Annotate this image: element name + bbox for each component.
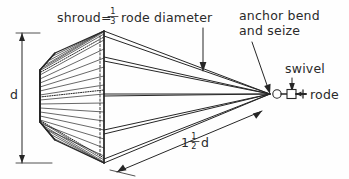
length-dimension-line <box>110 111 262 176</box>
title-fraction-numerator: 1 <box>110 6 115 16</box>
length-arrow-left <box>117 165 127 172</box>
title-prefix-label: shroud= <box>57 10 112 25</box>
anchor-shroud-diagram: shroud= 1 3 rode diameter anchor bend an… <box>0 0 349 179</box>
rode-label: rode <box>310 87 339 102</box>
dimension-arrow-bottom <box>19 155 25 163</box>
length-fraction-denominator: 2 <box>191 141 196 151</box>
thimble-ring-icon <box>273 90 281 98</box>
swivel-label: swivel <box>285 61 325 76</box>
shroud-leader-arrow <box>200 28 207 72</box>
length-label-group: 1 1 2 d <box>181 131 209 151</box>
title-label-group: shroud= 1 3 rode diameter <box>57 6 213 26</box>
length-arrow-right <box>253 111 262 119</box>
shroud-seam-upper <box>41 37 104 72</box>
anchor-hardware-group <box>273 90 306 99</box>
swivel-icon <box>287 90 296 99</box>
title-suffix-label: rode diameter <box>121 10 213 25</box>
length-suffix-label: d <box>201 135 209 150</box>
diameter-label: d <box>10 87 18 102</box>
anchor-bend-leader <box>252 42 271 94</box>
diagram-canvas: shroud= 1 3 rode diameter anchor bend an… <box>0 0 349 179</box>
title-fraction-denominator: 3 <box>110 16 115 26</box>
anchor-bend-label-line2: and seize <box>239 23 300 38</box>
anchor-bend-label-line1: anchor bend <box>239 8 320 23</box>
diameter-dimension-line <box>16 33 52 163</box>
shroud-leader-arrowhead <box>200 62 207 72</box>
shroud-cone-body <box>40 31 104 163</box>
dimension-arrow-top <box>19 33 25 41</box>
anchor-bend-label-group: anchor bend and seize <box>239 8 320 38</box>
shroud-left-face-bands <box>40 40 104 156</box>
length-dimension-shaft <box>117 111 262 172</box>
shroud-seam-lower <box>41 121 104 158</box>
rode-arrowhead-left <box>296 92 302 97</box>
